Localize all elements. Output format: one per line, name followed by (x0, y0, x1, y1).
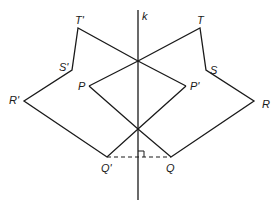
label-q: Q (166, 162, 175, 174)
label-r: R (262, 98, 270, 110)
label-s-prime: S' (59, 61, 69, 73)
right-angle-marker (138, 151, 144, 157)
label-p-prime: P' (190, 80, 200, 92)
label-r-prime: R' (9, 94, 20, 106)
label-p: P (78, 80, 86, 92)
label-t-prime: T' (75, 14, 85, 26)
figure-reflected (24, 28, 186, 157)
label-q-prime: Q' (101, 162, 113, 174)
label-k: k (142, 10, 148, 22)
reflection-diagram: k T' T S' S R' R P P' Q' Q (0, 0, 276, 207)
label-t: T (197, 14, 205, 26)
diagram-svg: k T' T S' S R' R P P' Q' Q (0, 0, 276, 207)
label-s: S (210, 64, 218, 76)
